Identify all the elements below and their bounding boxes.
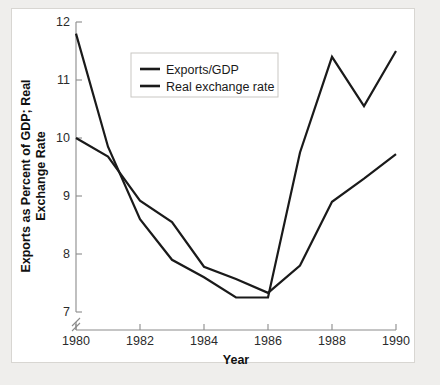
- y-tick-label-11: 11: [57, 73, 70, 87]
- x-tick-labels: 1980 1982 1984 1986 1988 1990: [62, 334, 410, 348]
- y-axis-title-line1: Exports as Percent of GDP; Real: [19, 79, 33, 272]
- y-tick-label-12: 12: [56, 15, 70, 29]
- y-tick-label-7: 7: [63, 305, 70, 319]
- series-line-real-exchange-rate: [76, 138, 396, 293]
- y-tick-label-8: 8: [63, 247, 70, 261]
- legend-label-exports-gdp: Exports/GDP: [166, 63, 239, 77]
- x-tick-label-1984: 1984: [190, 334, 218, 348]
- x-tick-label-1990: 1990: [382, 334, 410, 348]
- y-tick-labels: 12 11 10 9 8 7: [56, 15, 70, 319]
- x-tick-label-1980: 1980: [62, 334, 90, 348]
- line-chart: 12 11 10 9 8 7 1980 1982 1984 1986 1988 …: [0, 0, 440, 385]
- legend-label-real-exchange-rate: Real exchange rate: [166, 80, 274, 94]
- chart-legend: Exports/GDP Real exchange rate: [131, 53, 278, 97]
- x-tick-marks: [76, 324, 396, 330]
- y-axis-title-line2: Exchange Rate: [34, 131, 48, 221]
- y-tick-marks: [76, 22, 82, 312]
- y-axis: [72, 22, 80, 331]
- x-tick-label-1988: 1988: [318, 334, 346, 348]
- x-tick-label-1982: 1982: [126, 334, 154, 348]
- x-tick-label-1986: 1986: [254, 334, 282, 348]
- y-axis-title: Exports as Percent of GDP; Real Exchange…: [19, 79, 48, 272]
- y-tick-label-9: 9: [63, 189, 70, 203]
- y-tick-label-10: 10: [56, 131, 70, 145]
- x-axis-title: Year: [223, 353, 250, 367]
